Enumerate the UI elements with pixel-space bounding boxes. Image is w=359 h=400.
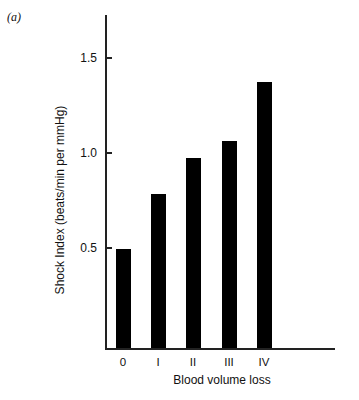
y-tick-1.5 xyxy=(105,57,112,59)
x-tick-label: IV xyxy=(259,356,270,368)
panel-label: (a) xyxy=(7,10,21,25)
x-tick-label: 0 xyxy=(120,356,126,368)
y-tick-label: 1.5 xyxy=(80,51,97,65)
y-axis-title: Shock Index (beats/min per mmHg) xyxy=(53,106,67,295)
x-tick-label: I xyxy=(156,356,159,368)
y-tick-label: 0.5 xyxy=(80,241,97,255)
y-tick-1.0 xyxy=(105,152,112,154)
x-axis xyxy=(105,348,335,350)
x-axis-title: Blood volume loss xyxy=(173,373,270,387)
x-tick-label: II xyxy=(190,356,196,368)
bar-I xyxy=(151,194,166,348)
x-tick-label: III xyxy=(224,356,234,368)
y-tick-0.5 xyxy=(105,247,112,249)
bar-III xyxy=(222,141,237,348)
y-tick-label: 1.0 xyxy=(80,146,97,160)
bar-IV xyxy=(257,82,272,348)
bar-II xyxy=(186,158,201,348)
y-axis xyxy=(105,15,107,349)
bar-0 xyxy=(116,249,131,348)
